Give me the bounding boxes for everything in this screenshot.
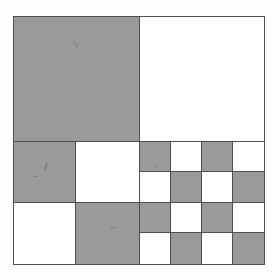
checker-cell (171, 172, 202, 203)
checker-cell (202, 203, 233, 234)
checker-cell (140, 142, 171, 173)
checker-cell (140, 172, 171, 203)
quadrant-top-left (14, 17, 140, 142)
quadrant-bottom-left (14, 142, 140, 264)
checkerboard-4x4 (140, 142, 265, 264)
checker-cell (140, 233, 171, 264)
checker-cell (202, 233, 233, 264)
checker-cell (140, 203, 171, 234)
quadrant-top-right (140, 17, 265, 142)
checkerboard-2x2 (14, 142, 139, 264)
checker-cell (233, 203, 264, 234)
checker-cell (202, 142, 233, 173)
checker-cell (202, 172, 233, 203)
quadrant-cell (140, 17, 265, 141)
checker-cell (233, 233, 264, 264)
checker-cell (233, 142, 264, 173)
checker-cell (171, 142, 202, 173)
checker-cell (14, 203, 76, 264)
figure-canvas (0, 0, 280, 279)
checker-cell (233, 172, 264, 203)
checker-cell (171, 233, 202, 264)
figure-outer-border (13, 16, 265, 265)
quadrant-cell (14, 17, 139, 141)
checker-cell (76, 203, 138, 264)
checker-cell (14, 142, 76, 203)
quadrant-bottom-right (140, 142, 265, 264)
checker-cell (171, 203, 202, 234)
checker-cell (76, 142, 138, 203)
